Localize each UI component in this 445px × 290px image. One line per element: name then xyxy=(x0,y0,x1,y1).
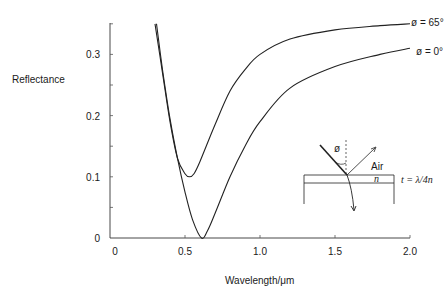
y-tick-label: 0.3 xyxy=(86,49,100,60)
inset-n-label: n xyxy=(374,173,379,184)
inset-thickness-label: t = λ/4n xyxy=(401,174,433,185)
series-label-phi-0: ø = 0° xyxy=(416,46,443,57)
inset-air-label: Air xyxy=(371,161,384,172)
x-tick-label: 2.0 xyxy=(403,246,417,257)
x-tick-labels: 00.51.01.52.0 xyxy=(112,246,417,257)
x-tick-label: 0 xyxy=(112,246,118,257)
x-tick-label: 0.5 xyxy=(178,246,192,257)
x-tick-label: 1.0 xyxy=(253,246,267,257)
y-tick-label: 0.2 xyxy=(86,111,100,122)
y-tick-labels: 00.10.20.3 xyxy=(86,49,100,244)
series-phi-65-curve xyxy=(155,24,410,177)
inset-angle-label: ø xyxy=(334,143,340,154)
series-label-phi-65: ø = 65° xyxy=(411,17,444,28)
y-tick-label: 0 xyxy=(94,233,100,244)
y-axis-label: Reflectance xyxy=(12,74,65,85)
series-phi-0-curve xyxy=(157,24,411,239)
reflectance-chart: 00.10.20.3 00.51.01.52.0 ø = 65° ø = 0° … xyxy=(0,0,445,290)
refracted-ray xyxy=(347,175,354,210)
axes xyxy=(110,23,410,238)
inset-diagram xyxy=(304,140,394,211)
x-tick-label: 1.5 xyxy=(328,246,342,257)
y-tick-label: 0.1 xyxy=(86,172,100,183)
x-axis-label: Wavelength/μm xyxy=(225,275,294,286)
